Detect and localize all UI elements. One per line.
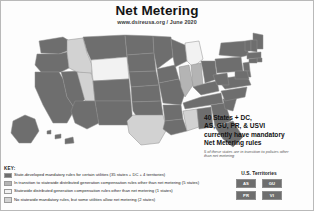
state-oh: [201, 61, 217, 83]
legend-swatch-mandatory: [4, 173, 12, 179]
state-nd: [125, 35, 154, 55]
legend-text-transition: In transition to statewide distributed g…: [14, 180, 199, 187]
state-mn: [153, 36, 173, 69]
page-subtitle: www.dsireusa.org / June 2020: [1, 19, 313, 25]
state-pa: [215, 57, 243, 73]
state-ar: [163, 105, 183, 121]
callout-footnote: 5 of these states are in transition to p…: [204, 150, 290, 160]
state-hi-1: [47, 130, 51, 134]
state-ks: [131, 85, 161, 102]
legend-swatch-none: [4, 197, 12, 203]
state-wy: [91, 57, 129, 81]
infographic-frame: Net Metering www.dsireusa.org / June 202…: [0, 0, 314, 211]
state-la: [163, 119, 187, 135]
key-label: KEY:: [4, 166, 15, 171]
territories-title: U.S. Territories: [226, 171, 292, 176]
callout-line-2: AS, GU, PR, & USVI: [204, 122, 308, 130]
legend-item-mandatory: State-developed mandatory rules for cert…: [4, 172, 200, 180]
state-hi-3: [65, 137, 74, 144]
legend: State-developed mandatory rules for cert…: [4, 172, 200, 205]
legend-text-none: No statewide mandatory rules, but some u…: [14, 197, 155, 204]
state-ny: [219, 41, 249, 57]
legend-item-transition: In transition to statewide distributed g…: [4, 180, 200, 188]
legend-item-other-rules: Statewide distributed generation compens…: [4, 188, 200, 196]
state-vt: [245, 40, 251, 51]
state-ct: [249, 58, 257, 63]
state-tx: [127, 115, 167, 145]
legend-swatch-transition: [4, 181, 12, 187]
state-wi: [171, 39, 187, 67]
state-md: [235, 71, 249, 79]
state-mt: [83, 35, 127, 60]
state-nj: [243, 62, 250, 71]
callout-block: 40 States + DC, AS, GU, PR, & USVI curre…: [204, 114, 308, 159]
territory-as: AS: [236, 179, 256, 188]
state-co: [93, 79, 131, 101]
legend-text-mandatory: State-developed mandatory rules for cert…: [14, 172, 165, 179]
state-or: [35, 52, 69, 72]
state-ak: [11, 115, 39, 143]
page-title: Net Metering: [1, 3, 313, 18]
legend-item-none: No statewide mandatory rules, but some u…: [4, 197, 200, 205]
territory-vi: VI: [262, 191, 282, 200]
state-nh: [251, 40, 257, 52]
territory-pr: PR: [236, 191, 256, 200]
callout-line-3: currently have mandatory: [204, 131, 308, 139]
state-az: [71, 101, 99, 129]
state-wa: [39, 37, 68, 54]
state-ri: [257, 58, 262, 62]
state-sd: [127, 53, 156, 72]
state-ne: [129, 71, 159, 87]
legend-swatch-other-rules: [4, 189, 12, 195]
territories-grid: AS GU PR VI: [226, 179, 292, 201]
territory-gu: GU: [262, 179, 282, 188]
state-in: [191, 63, 203, 87]
state-hi-2: [55, 134, 61, 139]
callout-line-1: 40 States + DC,: [204, 114, 308, 122]
legend-text-other-rules: Statewide distributed generation compens…: [14, 188, 173, 195]
callout-line-4: Net Metering rules: [204, 139, 308, 147]
territories-block: U.S. Territories AS GU PR VI: [226, 171, 292, 200]
state-ok: [132, 101, 163, 117]
